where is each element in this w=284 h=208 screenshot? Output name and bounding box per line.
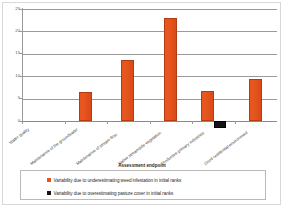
category-label-water-quality: Water quality — [8, 127, 30, 145]
legend-label-underestimating: Variability due to underestimating weed … — [54, 178, 182, 183]
bar-underestimating-residential-environment — [249, 79, 262, 121]
black-swatch-icon — [47, 191, 51, 195]
category-slot-stream-flow — [107, 9, 150, 123]
orange-swatch-icon — [47, 178, 51, 182]
plot-area — [22, 9, 277, 123]
x-axis-category-labels: Water quality Maintenance of the groundw… — [0, 123, 284, 165]
category-slot-water-quality — [22, 9, 65, 123]
chart-figure: 25 20 15 10 5 0 — [0, 0, 284, 208]
legend-entry-overestimating: Variability due to overestimating pastur… — [47, 188, 173, 198]
bar-series-group — [22, 9, 277, 123]
category-label-residential-environment: Good residential environment — [203, 130, 249, 166]
bar-underestimating-primary-industries — [201, 91, 214, 122]
bar-underestimating-streamside-vegetation — [164, 18, 177, 121]
category-slot-residential-environment — [235, 9, 278, 123]
legend-label-overestimating: Variability due to overestimating pastur… — [54, 191, 174, 196]
category-label-primary-industries: Productive primary industries — [160, 130, 205, 166]
category-slot-primary-industries — [192, 9, 235, 123]
category-label-stream-flow: Maintenance of stream flow — [75, 132, 118, 166]
legend-entry-underestimating: Variability due to underestimating weed … — [47, 175, 181, 185]
chart-legend: Variability due to underestimating weed … — [20, 170, 266, 200]
category-slot-streamside-vegetation — [150, 9, 193, 123]
category-label-streamside-vegetation: Native streamside vegetation — [117, 130, 162, 166]
y-axis-labels: 25 20 15 10 5 0 — [0, 0, 20, 124]
bar-underestimating-groundwater — [79, 92, 92, 121]
category-label-groundwater: Maintenance of the groundwater — [29, 127, 79, 166]
bar-underestimating-stream-flow — [121, 60, 134, 121]
category-slot-groundwater — [65, 9, 108, 123]
x-axis-title: Assessment endpoint — [0, 163, 284, 168]
